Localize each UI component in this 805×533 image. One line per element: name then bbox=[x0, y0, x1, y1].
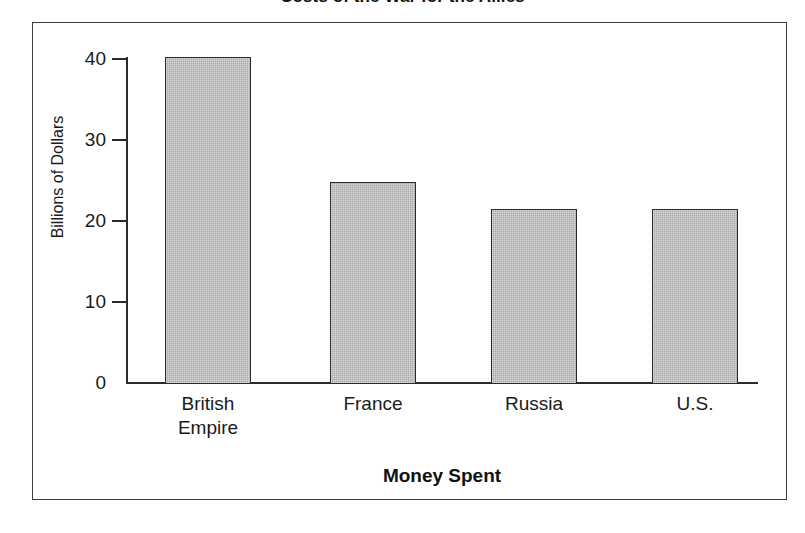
y-tick-10 bbox=[112, 301, 126, 303]
category-label-russia: Russia bbox=[464, 392, 604, 416]
y-tick-label-30: 30 bbox=[36, 129, 106, 151]
category-label-line: British bbox=[138, 392, 278, 416]
x-axis-title: Money Spent bbox=[126, 465, 758, 487]
y-axis-title: Billions of Dollars bbox=[49, 67, 67, 287]
y-tick-label-0: 0 bbox=[36, 372, 106, 394]
category-label-line: Russia bbox=[464, 392, 604, 416]
bar-russia bbox=[491, 209, 577, 384]
category-label-line: Empire bbox=[138, 416, 278, 440]
y-tick-20 bbox=[112, 220, 126, 222]
category-label-us: U.S. bbox=[625, 392, 765, 416]
y-tick-label-40: 40 bbox=[36, 48, 106, 70]
chart-title: Costs of the War for the Allies bbox=[0, 0, 805, 7]
y-axis-line bbox=[126, 57, 128, 384]
bar-british-empire bbox=[165, 57, 251, 384]
category-label-british-empire: British Empire bbox=[138, 392, 278, 440]
bar-france bbox=[330, 182, 416, 384]
y-tick-30 bbox=[112, 139, 126, 141]
category-label-france: France bbox=[303, 392, 443, 416]
category-label-line: U.S. bbox=[625, 392, 765, 416]
y-tick-label-10: 10 bbox=[36, 291, 106, 313]
bar-us bbox=[652, 209, 738, 384]
category-label-line: France bbox=[303, 392, 443, 416]
y-tick-40 bbox=[112, 58, 126, 60]
y-tick-label-20: 20 bbox=[36, 210, 106, 232]
